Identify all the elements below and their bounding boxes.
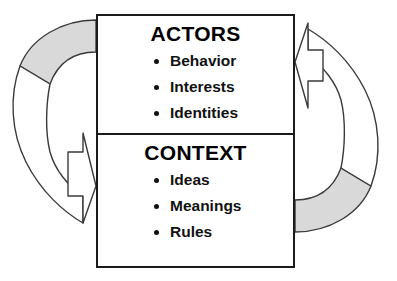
cycle-diagram: ACTORS Behavior Interests Identities CON… <box>0 0 397 281</box>
list-item: Behavior <box>154 48 293 74</box>
list-item: Meanings <box>154 193 293 219</box>
panel-stack: ACTORS Behavior Interests Identities CON… <box>96 14 295 268</box>
actors-heading: ACTORS <box>98 21 293 47</box>
context-panel: CONTEXT Ideas Meanings Rules <box>98 135 293 266</box>
list-item: Interests <box>154 74 293 100</box>
actors-bullet-list: Behavior Interests Identities <box>98 48 293 126</box>
actors-to-context-arrow <box>13 20 96 223</box>
context-heading: CONTEXT <box>98 140 293 166</box>
context-to-actors-arrow <box>295 23 378 232</box>
list-item: Rules <box>154 219 293 245</box>
list-item: Identities <box>154 100 293 126</box>
list-item: Ideas <box>154 167 293 193</box>
left-arrow-head <box>13 66 83 223</box>
actors-panel: ACTORS Behavior Interests Identities <box>98 16 293 135</box>
context-bullet-list: Ideas Meanings Rules <box>98 167 293 245</box>
